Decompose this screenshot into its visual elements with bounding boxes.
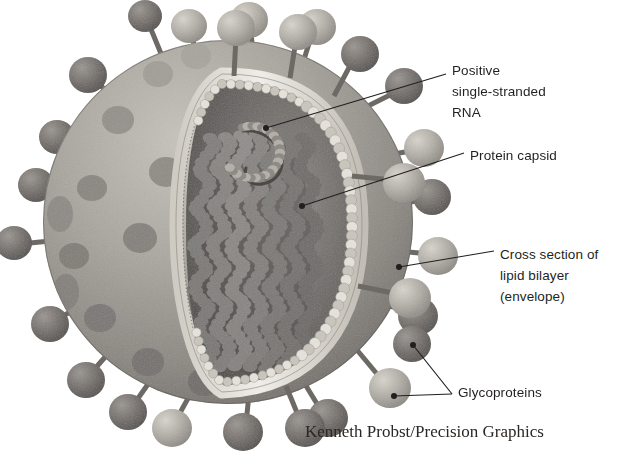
artwork-credit: Kenneth Probst/Precision Graphics: [305, 422, 544, 442]
leader-protein-capsid-anchor-dot: [300, 204, 305, 209]
label-protein-capsid: Protein capsid: [470, 145, 557, 166]
leader-lipid-bilayer-anchor-dot: [397, 265, 402, 270]
leader-rna-anchor-dot: [264, 126, 269, 131]
label-glycoproteins: Glycoproteins: [458, 382, 542, 403]
label-cross-section-lipid-bilayer: Cross section of lipid bilayer (envelope…: [500, 244, 598, 307]
phospholipid-head-bead: [204, 361, 213, 370]
phospholipid-head-bead: [194, 116, 203, 125]
leader-glycoproteins: [413, 345, 452, 394]
phospholipid-head-bead: [192, 328, 201, 337]
phospholipid-head-bead: [200, 353, 209, 362]
phospholipid-head-bead: [266, 368, 275, 377]
phospholipid-head-bead: [235, 80, 244, 89]
leader-glycoproteins-anchor-dot: [411, 343, 416, 348]
virus-diagram-figure: Positive single-stranded RNA Protein cap…: [0, 0, 642, 467]
phospholipid-head-bead: [241, 375, 250, 384]
phospholipid-head-bead: [275, 365, 284, 374]
phospholipid-head-bead: [262, 84, 271, 93]
phospholipid-head-bead: [253, 82, 262, 91]
capsid-subunit: [243, 362, 258, 372]
phospholipid-head-bead: [226, 80, 235, 89]
phospholipid-head-bead: [194, 337, 203, 346]
phospholipid-head-bead: [270, 87, 279, 96]
phospholipid-head-bead: [197, 108, 206, 117]
phospholipid-head-bead: [197, 345, 206, 354]
phospholipid-head-bead: [244, 81, 253, 90]
protein-capsid: [187, 124, 325, 376]
phospholipid-head-bead: [258, 371, 267, 380]
phospholipid-head-bead: [232, 376, 241, 385]
capsid-subunit: [227, 361, 242, 371]
label-positive-single-stranded-rna: Positive single-stranded RNA: [452, 60, 546, 123]
phospholipid-head-bead: [223, 377, 232, 386]
phospholipid-head-bead: [210, 85, 219, 94]
leader-glycoproteins-2-anchor-dot: [392, 394, 397, 399]
phospholipid-head-bead: [279, 89, 288, 98]
rna-nucleotide-bead: [224, 163, 234, 171]
phospholipid-head-bead: [249, 373, 258, 382]
